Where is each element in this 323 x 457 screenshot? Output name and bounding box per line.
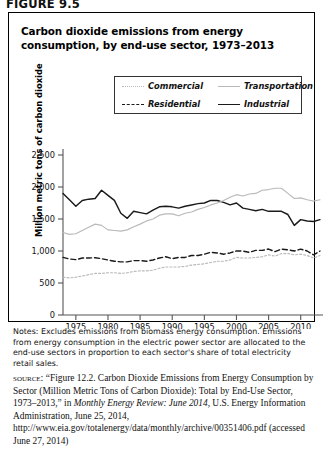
source-italic-1: Monthly Energy Review: June 2014, <box>74 398 210 408</box>
figure-container: Carbon dioxide emissions from energy con… <box>8 12 315 322</box>
legend-label-transportation: Transportation <box>244 81 313 91</box>
legend-line-transportation-icon <box>218 83 240 90</box>
legend-label-commercial: Commercial <box>148 81 203 91</box>
legend-item-transportation: Transportation <box>218 81 310 91</box>
plot-area: Million metric tons of carbon dioxide 05… <box>17 117 323 329</box>
y-axis-tick-label: 0 <box>50 310 55 320</box>
chart-legend: Commercial Transportation Residential In… <box>114 76 302 114</box>
legend-line-commercial-icon <box>122 83 144 90</box>
legend-line-residential-icon <box>122 101 144 108</box>
line-chart-svg: 05001,0001,5002,0002,5001975198019851990… <box>17 117 323 329</box>
y-axis-tick-label: 1,000 <box>32 246 55 256</box>
legend-item-residential: Residential <box>122 99 218 109</box>
legend-item-commercial: Commercial <box>122 81 218 91</box>
chart-title: Carbon dioxide emissions from energy con… <box>21 24 296 52</box>
legend-line-industrial-icon <box>218 101 240 108</box>
legend-label-residential: Residential <box>148 99 200 109</box>
chart-notes: Notes: Excludes emissions from biomass e… <box>13 327 313 369</box>
series-line-commercial <box>63 254 320 278</box>
legend-label-industrial: Industrial <box>244 99 289 109</box>
source-kicker: source: <box>13 372 43 383</box>
figure-label: FIGURE 9.5 <box>6 0 80 11</box>
series-line-residential <box>63 249 320 262</box>
y-axis-tick-label: 500 <box>39 278 55 288</box>
series-line-industrial <box>63 190 320 225</box>
legend-grid: Commercial Transportation Residential In… <box>115 77 301 113</box>
legend-item-industrial: Industrial <box>218 99 310 109</box>
chart-source: source: “Figure 12.2. Carbon Dioxide Emi… <box>13 372 314 448</box>
y-axis-title: Million metric tons of carbon dioxide <box>34 107 44 237</box>
